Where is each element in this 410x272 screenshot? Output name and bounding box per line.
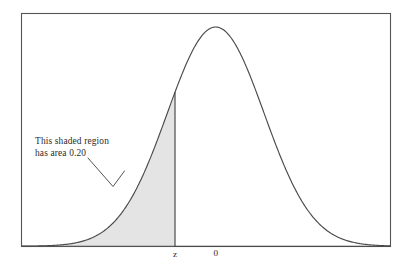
annotation-line-1: This shaded region <box>35 136 109 148</box>
plot-frame-border <box>22 14 391 247</box>
annotation-line-2: has area 0.20 <box>35 148 109 160</box>
shaded-tail-region <box>22 92 175 246</box>
axis-tick-label-zero: 0 <box>206 248 226 258</box>
annotation-leader-line <box>88 158 125 187</box>
shaded-region-annotation: This shaded region has area 0.20 <box>35 136 109 159</box>
normal-curve-figure: This shaded region has area 0.20 z 0 <box>0 0 410 272</box>
axis-tick-label-z: z <box>165 249 185 259</box>
